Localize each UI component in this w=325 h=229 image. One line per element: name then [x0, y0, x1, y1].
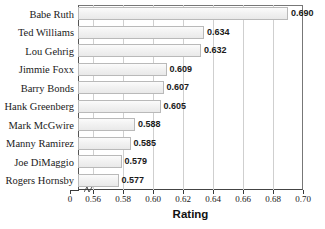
x-tick-label: 0.62	[168, 194, 198, 204]
x-tick-label: 0.64	[198, 194, 228, 204]
bar-value-label: 0.585	[134, 136, 157, 151]
bar	[78, 100, 161, 113]
category-label: Babe Ruth	[0, 8, 74, 22]
bar	[78, 155, 122, 168]
x-tick-label-zero: 0	[55, 194, 85, 204]
category-label: Hank Greenberg	[0, 100, 74, 114]
x-axis-title: Rating	[78, 208, 303, 220]
rating-bar-chart: 0.6900.6340.6320.6090.6070.6050.5880.585…	[0, 0, 325, 229]
category-label: Ted Williams	[0, 26, 74, 40]
bar	[78, 174, 119, 187]
gridline	[273, 5, 274, 190]
category-label: Manny Ramirez	[0, 137, 74, 151]
bar-value-label: 0.605	[164, 99, 187, 114]
category-label: Barry Bonds	[0, 82, 74, 96]
bar-value-label: 0.632	[204, 43, 227, 58]
x-tick-label: 0.70	[288, 194, 318, 204]
bar-value-label: 0.588	[138, 117, 161, 132]
bar	[78, 7, 288, 20]
x-tick-label: 0.60	[138, 194, 168, 204]
bar	[78, 63, 167, 76]
bar	[78, 26, 204, 39]
category-label: Jimmie Foxx	[0, 63, 74, 77]
x-tick-label: 0.58	[108, 194, 138, 204]
bar	[78, 137, 131, 150]
bar-value-label: 0.634	[207, 25, 230, 40]
gridline	[243, 5, 244, 190]
bar	[78, 44, 201, 57]
bar-value-label: 0.690	[291, 6, 314, 21]
category-label: Rogers Hornsby	[0, 174, 74, 188]
bar-value-label: 0.577	[122, 173, 145, 188]
category-label: Mark McGwire	[0, 119, 74, 133]
x-tick-label: 0.66	[228, 194, 258, 204]
bar	[78, 118, 135, 131]
x-tick-label: 0.68	[258, 194, 288, 204]
category-label: Lou Gehrig	[0, 45, 74, 59]
category-label: Joe DiMaggio	[0, 156, 74, 170]
bar-value-label: 0.579	[125, 154, 148, 169]
bar	[78, 81, 164, 94]
bar-value-label: 0.607	[167, 80, 190, 95]
bar-value-label: 0.609	[170, 62, 193, 77]
axis-break-icon	[84, 186, 93, 192]
axis-zero-stub	[70, 190, 79, 191]
